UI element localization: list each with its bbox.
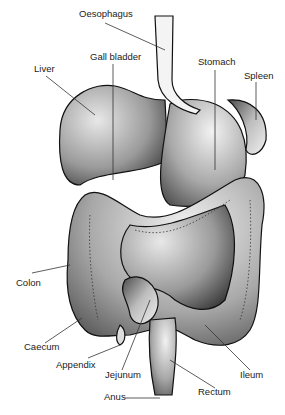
label-anus: Anus — [104, 392, 126, 402]
label-oesophagus: Oesophagus — [79, 9, 133, 19]
label-stomach: Stomach — [198, 57, 236, 67]
label-liver: Liver — [34, 64, 55, 74]
label-spleen: Spleen — [244, 71, 274, 81]
label-gall-bladder: Gall bladder — [90, 52, 141, 62]
digestive-system-diagram: Oesophagus Gall bladder Liver Stomach Sp… — [0, 0, 285, 415]
label-jejunum: Jejunum — [105, 370, 141, 380]
rectum-shape — [149, 318, 176, 395]
label-rectum: Rectum — [198, 387, 231, 397]
label-caecum: Caecum — [24, 342, 59, 352]
label-colon: Colon — [16, 278, 41, 288]
organs — [60, 16, 267, 395]
liver-shape — [60, 85, 168, 185]
label-ileum: Ileum — [240, 370, 263, 380]
label-appendix: Appendix — [56, 360, 96, 370]
